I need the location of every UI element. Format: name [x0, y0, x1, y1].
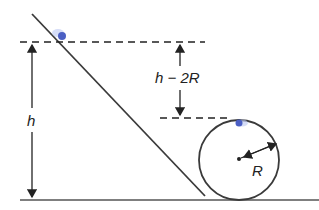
- ball-top: [236, 120, 243, 127]
- h-label: h: [27, 112, 35, 129]
- h-minus-2r-label: h − 2R: [155, 69, 200, 86]
- radius-arrow-back: [244, 146, 270, 157]
- loop-center-dot: [237, 157, 241, 161]
- ball-start: [58, 32, 66, 40]
- r-label: R: [252, 162, 263, 179]
- loop-diagram: h h − 2R R: [0, 0, 319, 210]
